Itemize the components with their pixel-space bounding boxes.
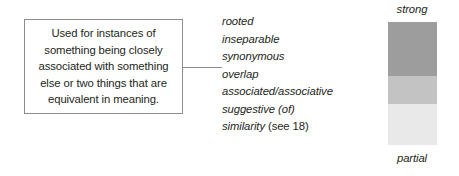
term-list-item: overlap xyxy=(222,66,372,84)
term-label: rooted xyxy=(222,15,253,27)
strong-band xyxy=(388,22,437,76)
connector-line xyxy=(183,67,222,68)
term-list-item: similarity (see 18) xyxy=(222,118,372,136)
term-label: suggestive (of) xyxy=(222,103,295,115)
term-list-item: inseparable xyxy=(222,31,372,49)
term-list-item: suggestive (of) xyxy=(222,101,372,119)
term-label: associated/associative xyxy=(222,85,333,97)
moderate-band xyxy=(388,76,437,104)
strength-scale: strong partial xyxy=(381,0,451,176)
term-list-item: associated/associative xyxy=(222,83,372,101)
term-list-item: synonymous xyxy=(222,48,372,66)
term-label: overlap xyxy=(222,68,258,80)
description-box: Used for instances of something being cl… xyxy=(24,19,183,114)
term-label: synonymous xyxy=(222,50,284,62)
strength-scale-bar xyxy=(388,22,437,145)
diagram-canvas: Used for instances of something being cl… xyxy=(0,0,459,176)
scale-label-strong: strong xyxy=(381,3,443,15)
term-label: similarity xyxy=(222,120,265,132)
scale-label-partial: partial xyxy=(381,152,443,164)
term-list: rootedinseparablesynonymousoverlapassoci… xyxy=(222,13,372,136)
partial-band xyxy=(388,104,437,145)
term-list-item: rooted xyxy=(222,13,372,31)
description-text: Used for instances of something being cl… xyxy=(25,25,182,108)
term-cross-reference: (see 18) xyxy=(265,120,309,132)
term-label: inseparable xyxy=(222,33,279,45)
